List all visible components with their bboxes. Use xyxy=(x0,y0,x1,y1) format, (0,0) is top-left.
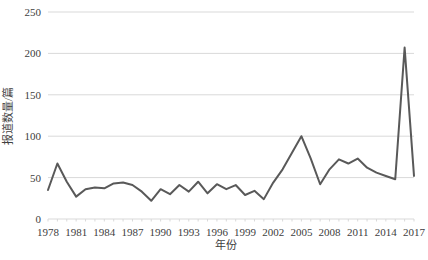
y-tick-label: 200 xyxy=(25,47,42,59)
x-tick-label: 1987 xyxy=(121,226,144,238)
x-axis-title: 年份 xyxy=(215,238,237,251)
x-tick-label: 1981 xyxy=(65,226,87,238)
x-tick-label: 1996 xyxy=(206,226,229,238)
chart-canvas: 050100150200250 197819811984198719901993… xyxy=(0,0,428,260)
x-tick-label: 2005 xyxy=(290,226,313,238)
x-tick-label: 2017 xyxy=(403,226,426,238)
y-tick-label: 0 xyxy=(36,213,42,225)
chart-background xyxy=(0,0,428,260)
y-axis-title: 报道数量/篇 xyxy=(1,87,14,145)
line-chart: 050100150200250 197819811984198719901993… xyxy=(0,0,428,260)
y-tick-label: 50 xyxy=(30,172,42,184)
x-tick-label: 1993 xyxy=(178,226,201,238)
x-tick-label: 2002 xyxy=(262,226,284,238)
x-tick-label: 2014 xyxy=(375,226,398,238)
x-tick-label: 2011 xyxy=(347,226,369,238)
x-tick-label: 1978 xyxy=(37,226,60,238)
y-tick-label: 100 xyxy=(25,130,42,142)
x-tick-label: 1999 xyxy=(234,226,257,238)
x-tick-label: 1990 xyxy=(150,226,173,238)
y-tick-label: 150 xyxy=(25,89,42,101)
x-tick-label: 2008 xyxy=(319,226,342,238)
y-tick-label: 250 xyxy=(25,6,42,18)
x-tick-label: 1984 xyxy=(93,226,116,238)
